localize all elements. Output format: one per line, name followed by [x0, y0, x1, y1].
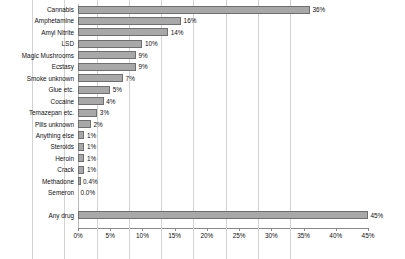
category-label: Glue etc. — [0, 84, 74, 95]
x-axis-line — [78, 228, 369, 229]
bar-row: Steroids1% — [0, 141, 405, 152]
category-label: Methadone — [0, 176, 74, 187]
bar-chart: Cannabis36%Amphetamine16%Amyl Nitrite14%… — [0, 0, 405, 259]
category-label: Pills unknown — [0, 119, 74, 130]
bar-row: Methadone0.4% — [0, 176, 405, 187]
bar-row: Pills unknown2% — [0, 119, 405, 130]
bar-value-label: 45% — [371, 210, 384, 221]
bar — [78, 97, 104, 105]
bar — [78, 63, 136, 71]
bar-value-label: 16% — [184, 15, 197, 26]
bar-row: Smoke unknown7% — [0, 73, 405, 84]
bar — [78, 6, 310, 14]
bar-row: Ecstasy9% — [0, 61, 405, 72]
bar-value-label: 1% — [87, 153, 96, 164]
bar-value-label: 9% — [139, 50, 148, 61]
bar — [78, 28, 168, 36]
bar-row: Heroin1% — [0, 153, 405, 164]
bar-row: Semeron0.0% — [0, 187, 405, 198]
bar-value-label: 1% — [87, 141, 96, 152]
category-label: Semeron — [0, 187, 74, 198]
bar-value-label: 1% — [87, 164, 96, 175]
category-label: Amphetamine — [0, 15, 74, 26]
bar — [78, 74, 123, 82]
category-label: Steroids — [0, 141, 74, 152]
bar — [78, 109, 97, 117]
category-label: LSD — [0, 38, 74, 49]
bar — [78, 166, 84, 174]
bar-value-label: 14% — [171, 27, 184, 38]
category-label: Smoke unknown — [0, 73, 74, 84]
bar-row: Magic Mushrooms9% — [0, 50, 405, 61]
category-label: Crack — [0, 164, 74, 175]
bar — [78, 40, 142, 48]
bar-row: Amphetamine16% — [0, 15, 405, 26]
bar-row: Temazepan etc.3% — [0, 107, 405, 118]
x-axis-tick-label: 45% — [348, 231, 388, 241]
bar-value-label: 0.4% — [83, 176, 98, 187]
category-label: Cocaine — [0, 96, 74, 107]
bar-value-label: 1% — [87, 130, 96, 141]
bar-value-label: 3% — [100, 107, 109, 118]
bar — [78, 17, 181, 25]
bar-value-label: 10% — [145, 38, 158, 49]
bar-row-summary: Any drug45% — [0, 210, 405, 221]
bar-row: Glue etc.5% — [0, 84, 405, 95]
bar — [78, 154, 84, 162]
bar — [78, 120, 91, 128]
bar — [78, 211, 368, 219]
bar-row: Amyl Nitrite14% — [0, 27, 405, 38]
category-label: Any drug — [0, 210, 74, 221]
bar-value-label: 7% — [126, 73, 135, 84]
bar — [78, 131, 84, 139]
category-label: Amyl Nitrite — [0, 27, 74, 38]
bar-row: Crack1% — [0, 164, 405, 175]
bar — [78, 86, 110, 94]
bar-value-label: 9% — [139, 61, 148, 72]
category-label: Anything else — [0, 130, 74, 141]
bar-row: Cannabis36% — [0, 4, 405, 15]
category-label: Ecstasy — [0, 61, 74, 72]
category-label: Magic Mushrooms — [0, 50, 74, 61]
bar-value-label: 4% — [106, 96, 115, 107]
bar-row: LSD10% — [0, 38, 405, 49]
bar-value-label: 0.0% — [81, 187, 96, 198]
bar — [78, 177, 81, 185]
bar-value-label: 5% — [113, 84, 122, 95]
bar-row: Cocaine4% — [0, 96, 405, 107]
bar — [78, 143, 84, 151]
bar-value-label: 36% — [313, 4, 326, 15]
category-label: Temazepan etc. — [0, 107, 74, 118]
bar-value-label: 2% — [93, 119, 102, 130]
bar-row: Anything else1% — [0, 130, 405, 141]
bar — [78, 51, 136, 59]
category-label: Heroin — [0, 153, 74, 164]
category-label: Cannabis — [0, 4, 74, 15]
